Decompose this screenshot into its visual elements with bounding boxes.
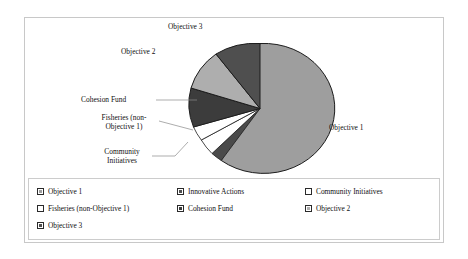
pie-label-cohesion-fund: Cohesion Fund <box>81 95 126 104</box>
legend-swatch-icon <box>177 188 184 195</box>
pie-plot-area: Objective 3 Objective 2 Cohesion Fund Fi… <box>25 18 443 176</box>
legend-item-label: Objective 1 <box>48 187 82 196</box>
legend-item-objective-3[interactable]: Objective 3 <box>37 217 82 234</box>
legend-item-label: Objective 3 <box>48 221 82 230</box>
legend-item-label: Fisheries (non-Objective 1) <box>48 204 129 213</box>
legend-swatch-icon <box>305 205 312 212</box>
legend-item-label: Community Initiatives <box>316 187 383 196</box>
legend-swatch-icon <box>305 188 312 195</box>
legend-item-label: Objective 2 <box>316 204 350 213</box>
chart-frame: Objective 3 Objective 2 Cohesion Fund Fi… <box>24 17 444 243</box>
chart-legend: Objective 1 Innovative Actions Community… <box>28 178 440 240</box>
legend-item-label: Cohesion Fund <box>188 204 233 213</box>
pie-label-fisheries: Fisheries (non-Objective 1) <box>92 113 156 132</box>
legend-item-cohesion-fund[interactable]: Cohesion Fund <box>177 200 233 217</box>
legend-row: Fisheries (non-Objective 1) Cohesion Fun… <box>29 200 439 217</box>
pie-label-community-initiatives: Community Initiatives <box>91 147 153 166</box>
legend-item-community-initiatives[interactable]: Community Initiatives <box>305 183 383 200</box>
legend-row: Objective 1 Innovative Actions Community… <box>29 183 439 200</box>
pie-slices <box>189 43 335 173</box>
leader-line-community <box>152 142 188 156</box>
pie-label-objective-1: Objective 1 <box>329 123 364 132</box>
leader-line-fisheries <box>159 121 193 130</box>
legend-item-innovative-actions[interactable]: Innovative Actions <box>177 183 244 200</box>
pie-label-objective-2: Objective 2 <box>121 47 156 56</box>
legend-item-label: Innovative Actions <box>188 187 244 196</box>
legend-item-objective-1[interactable]: Objective 1 <box>37 183 82 200</box>
legend-item-objective-2[interactable]: Objective 2 <box>305 200 350 217</box>
legend-row: Objective 3 <box>29 217 439 234</box>
legend-swatch-icon <box>37 205 44 212</box>
pie-label-objective-3: Objective 3 <box>168 22 203 31</box>
legend-swatch-icon <box>37 188 44 195</box>
legend-item-fisheries[interactable]: Fisheries (non-Objective 1) <box>37 200 129 217</box>
legend-swatch-icon <box>37 222 44 229</box>
legend-swatch-icon <box>177 205 184 212</box>
